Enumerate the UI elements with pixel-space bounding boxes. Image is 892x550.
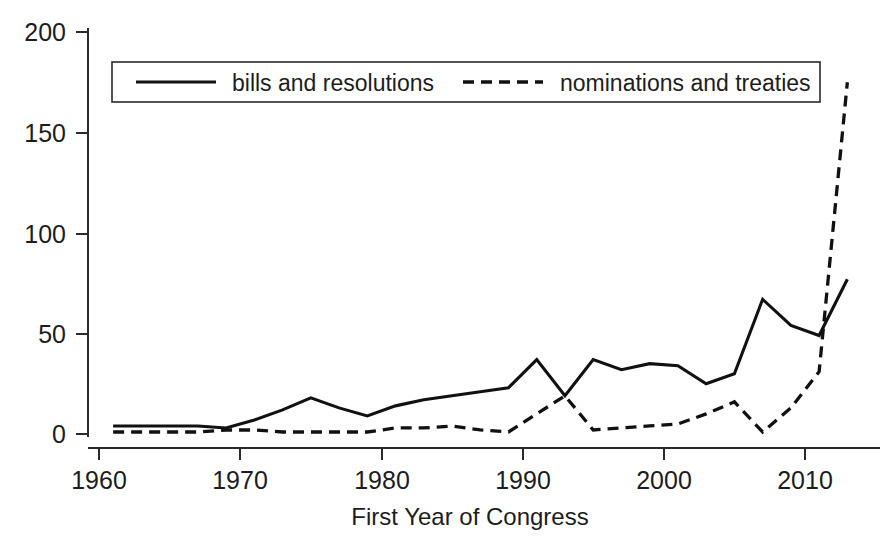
x-axis-ticks	[99, 448, 805, 460]
x-tick-label-1990: 1990	[495, 466, 551, 494]
line-chart: 200 150 100 50 0 1960 1970 1980 1990 200…	[0, 0, 892, 550]
x-tick-label-2010: 2010	[777, 466, 833, 494]
x-tick-label-1980: 1980	[354, 466, 410, 494]
x-axis-tick-labels: 1960 1970 1980 1990 2000 2010	[71, 466, 833, 494]
x-tick-label-1960: 1960	[71, 466, 127, 494]
legend-label-nominations-and-treaties: nominations and treaties	[560, 70, 811, 96]
y-tick-label-100: 100	[24, 220, 66, 248]
series-line-nominations-and-treaties	[113, 82, 847, 432]
x-tick-label-1970: 1970	[212, 466, 268, 494]
y-tick-label-150: 150	[24, 119, 66, 147]
y-tick-label-50: 50	[38, 320, 66, 348]
y-tick-label-200: 200	[24, 18, 66, 46]
y-axis-ticks	[76, 32, 88, 434]
x-axis-title: First Year of Congress	[351, 503, 588, 530]
chart-figure: 200 150 100 50 0 1960 1970 1980 1990 200…	[0, 0, 892, 550]
legend-label-bills-and-resolutions: bills and resolutions	[232, 70, 434, 96]
chart-legend: bills and resolutions nominations and tr…	[112, 62, 820, 102]
x-tick-label-2000: 2000	[636, 466, 692, 494]
y-axis-tick-labels: 200 150 100 50 0	[24, 18, 66, 448]
series-group	[113, 82, 847, 432]
y-tick-label-0: 0	[52, 420, 66, 448]
